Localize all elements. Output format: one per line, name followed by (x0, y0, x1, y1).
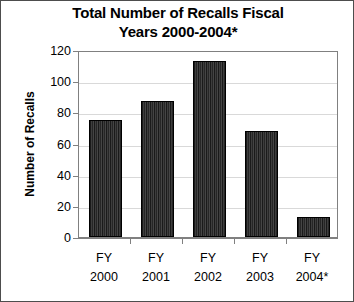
x-axis-line (78, 238, 338, 239)
x-axis-tick-label-line-1: FY (304, 251, 320, 265)
x-axis-tick-label: FY2001 (130, 249, 182, 287)
x-axis-tick-mark (286, 238, 287, 244)
x-axis-tick-label: FY2004* (286, 249, 338, 287)
y-axis-tick-label: 120 (31, 45, 71, 57)
x-axis-tick-label: FY2000 (78, 249, 130, 287)
y-axis-tick-label: 100 (31, 76, 71, 88)
y-axis-tick-label: 20 (31, 201, 71, 213)
plot-area (78, 51, 338, 238)
bar-chart: Total Number of Recalls Fiscal Years 200… (0, 0, 354, 302)
x-axis-tick-label: FY2002 (182, 249, 234, 287)
x-axis-tick-label-line-1: FY (200, 251, 216, 265)
y-axis-tick-label: 0 (31, 232, 71, 244)
y-axis-tick-label: 80 (31, 107, 71, 119)
chart-title: Total Number of Recalls Fiscal Years 200… (1, 3, 354, 41)
x-axis-tick-mark (182, 238, 183, 244)
chart-title-line-2: Years 2000-2004* (119, 23, 238, 40)
y-axis-tick-label: 40 (31, 170, 71, 182)
x-axis-tick-mark (234, 238, 235, 244)
x-axis-tick-label-line-2: 2001 (130, 268, 182, 287)
x-axis-tick-label-line-2: 2002 (182, 268, 234, 287)
bar (89, 120, 122, 237)
x-axis-tick-mark (130, 238, 131, 244)
x-axis-tick-label-line-2: 2003 (234, 268, 286, 287)
chart-title-line-1: Total Number of Recalls Fiscal (72, 4, 283, 21)
bar (193, 61, 226, 237)
bar (141, 101, 174, 237)
bar (245, 131, 278, 237)
y-axis-tick-label: 60 (31, 139, 71, 151)
x-axis-tick-label-line-1: FY (252, 251, 268, 265)
x-axis-tick-label-line-1: FY (148, 251, 164, 265)
x-axis-tick-label: FY2003 (234, 249, 286, 287)
x-axis-tick-label-line-2: 2000 (78, 268, 130, 287)
bar (297, 217, 330, 237)
x-axis-tick-label-line-2: 2004* (286, 268, 338, 287)
x-axis-tick-label-line-1: FY (96, 251, 112, 265)
